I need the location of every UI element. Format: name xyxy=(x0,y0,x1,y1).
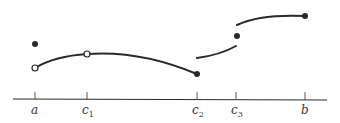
label-c2: c2 xyxy=(192,103,204,119)
label-c1: c1 xyxy=(82,103,94,119)
piecewise-graph: a c1 c2 c3 b xyxy=(0,0,340,123)
curve-segment-a-to-c2 xyxy=(35,53,197,74)
open-circle-icon xyxy=(84,51,90,57)
filled-dot-icon xyxy=(302,13,308,19)
label-a: a xyxy=(31,103,38,117)
label-b: b xyxy=(301,103,309,117)
filled-dot-icon xyxy=(234,33,240,39)
open-circle-icon xyxy=(32,65,38,71)
x-axis xyxy=(13,99,327,100)
curve-segment-c2-to-c3 xyxy=(197,46,236,58)
label-c3: c3 xyxy=(231,103,243,119)
filled-dot-icon xyxy=(194,71,200,77)
filled-dot-icon xyxy=(32,41,38,47)
curve-segment-c3-to-b xyxy=(237,16,305,25)
